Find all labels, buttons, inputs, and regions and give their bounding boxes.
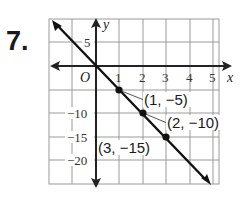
- x-tick-label: 3: [162, 70, 169, 85]
- point-label: (1, −5): [144, 91, 188, 108]
- x-tick-label: 2: [139, 70, 146, 85]
- y-axis-label: y: [101, 17, 110, 32]
- x-tick-label: 4: [186, 70, 193, 85]
- x-tick-label: 1: [115, 70, 122, 85]
- y-tick-label: −20: [67, 153, 87, 168]
- data-point: [115, 86, 122, 93]
- data-point: [139, 109, 146, 116]
- y-tick-label: −15: [67, 130, 87, 145]
- x-tick-label: 5: [209, 70, 216, 85]
- x-axis-label: x: [226, 70, 234, 85]
- point-label: (3, −15): [98, 139, 150, 156]
- origin-label: O: [80, 70, 90, 85]
- point-label: (2, −10): [167, 114, 219, 131]
- y-tick-label: −10: [67, 106, 87, 121]
- coordinate-plane: y x O 1 2 3 4 5 5 −10 −15 −20 (1, −5) (2…: [0, 0, 242, 199]
- y-tick-label: 5: [84, 35, 91, 50]
- data-point: [162, 133, 169, 140]
